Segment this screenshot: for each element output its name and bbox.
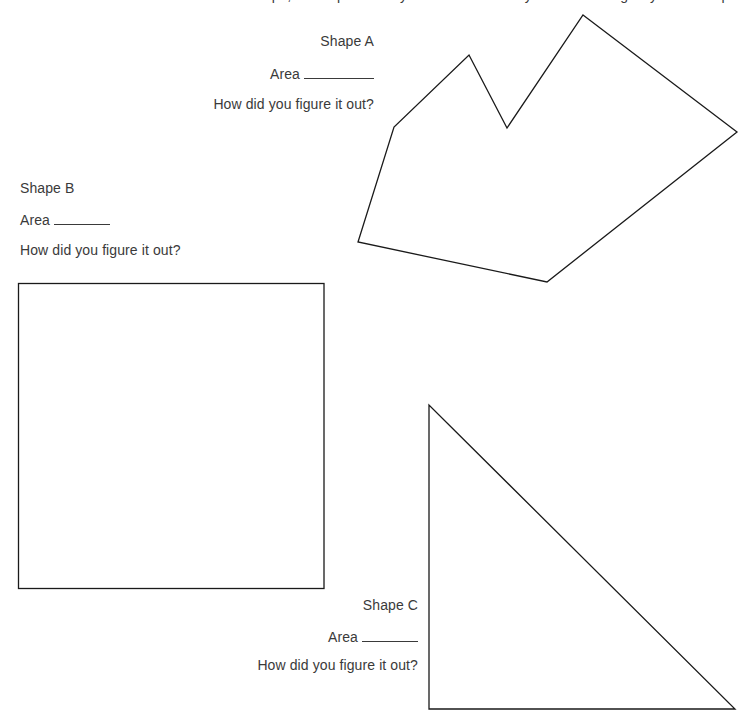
shape-b-question: How did you figure it out?	[20, 242, 181, 258]
shape-b-label: Shape B	[20, 180, 74, 196]
shape-b-area-blank[interactable]	[54, 223, 110, 225]
shape-a-area-label: Area	[270, 66, 300, 82]
shape-b-square	[19, 284, 325, 589]
shapes-canvas	[0, 0, 754, 728]
shape-b-area-label: Area	[20, 212, 50, 228]
shape-c-question: How did you figure it out?	[200, 657, 418, 673]
shape-a-label: Shape A	[200, 33, 374, 49]
shape-a-area-blank[interactable]	[304, 77, 374, 79]
shape-a-polygon	[358, 15, 737, 282]
shape-c-area-row: Area	[240, 629, 418, 645]
shape-b-area-row: Area	[20, 212, 110, 228]
shape-a-question: How did you figure it out?	[150, 96, 374, 112]
shape-c-triangle	[429, 405, 735, 709]
shape-c-label: Shape C	[240, 597, 418, 613]
shape-c-area-blank[interactable]	[362, 640, 418, 642]
shape-a-area-row: Area	[200, 66, 374, 82]
shape-c-area-label: Area	[328, 629, 358, 645]
